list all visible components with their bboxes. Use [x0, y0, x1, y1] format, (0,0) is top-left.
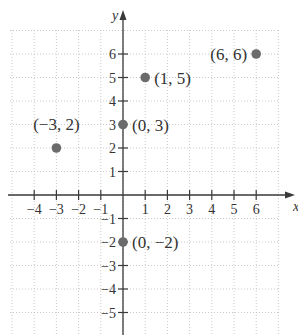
x-tick-label: −4: [27, 202, 42, 217]
data-point-label: (0, −2): [132, 233, 178, 252]
data-point: [52, 143, 62, 153]
x-tick-label: 2: [164, 202, 171, 217]
x-tick-label: −2: [71, 202, 86, 217]
data-point-label: (0, 3): [132, 116, 169, 135]
x-tick-label: 4: [208, 202, 215, 217]
data-point-label: (6, 6): [210, 45, 247, 64]
y-tick-label: 2: [109, 141, 116, 156]
data-point: [118, 120, 128, 130]
axis-ticks: −4−3−2−1123456654321−1−2−3−4−5: [27, 47, 260, 321]
data-point: [118, 237, 128, 247]
y-tick-label: −5: [101, 306, 116, 321]
data-point: [251, 49, 261, 59]
x-tick-label: 6: [253, 202, 260, 217]
y-tick-label: 1: [109, 165, 116, 180]
x-tick-label: −3: [49, 202, 64, 217]
y-tick-label: 6: [109, 47, 116, 62]
data-point-label: (1, 5): [154, 69, 191, 88]
y-tick-label: −4: [101, 282, 116, 297]
x-axis-label: x: [292, 199, 298, 214]
data-points: (−3, 2)(0, 3)(1, 5)(6, 6)(0, −2): [33, 45, 261, 252]
y-tick-label: 5: [109, 71, 116, 86]
y-axis-label: y: [110, 8, 119, 23]
coordinate-plane: xy −4−3−2−1123456654321−1−2−3−4−5 (−3, 2…: [0, 0, 298, 335]
x-tick-label: 5: [231, 202, 238, 217]
x-axis-arrow-icon: [285, 192, 295, 199]
y-tick-label: −2: [101, 235, 116, 250]
y-tick-label: 4: [109, 94, 116, 109]
data-point: [140, 73, 150, 83]
x-tick-label: 3: [186, 202, 193, 217]
data-point-label: (−3, 2): [33, 115, 79, 134]
y-tick-label: 3: [109, 118, 116, 133]
y-tick-label: −3: [101, 259, 116, 274]
y-axis-arrow-icon: [120, 10, 127, 20]
y-tick-label: −1: [101, 212, 116, 227]
x-tick-label: 1: [142, 202, 149, 217]
